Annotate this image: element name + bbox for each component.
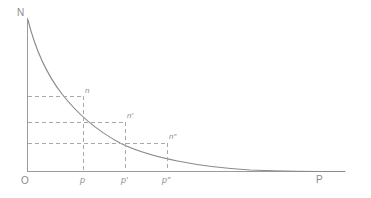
origin-label: O [21, 176, 29, 186]
x-tick-label-p: p [80, 176, 85, 185]
exponential-decay-figure: N P O p p′ p″ n n′ n″ [0, 0, 371, 198]
x-axis-label: P [316, 175, 323, 185]
y-axis-label: N [17, 8, 24, 18]
curve-point-label-n-double-prime: n″ [169, 133, 176, 141]
curve-point-label-n: n [85, 87, 89, 95]
plot-canvas [0, 0, 371, 198]
decay-curve [28, 20, 345, 172]
x-tick-label-p-double-prime: p″ [162, 176, 170, 185]
curve-point-label-n-prime: n′ [127, 112, 133, 120]
x-tick-label-p-prime: p′ [121, 176, 128, 185]
